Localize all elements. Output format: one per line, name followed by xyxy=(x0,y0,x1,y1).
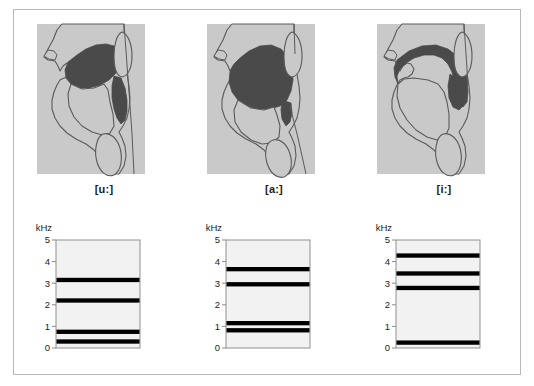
y-axis-tick-label: 2 xyxy=(45,299,50,310)
formant-band-F4 xyxy=(397,253,480,257)
y-axis-tick-label: 3 xyxy=(45,278,50,289)
y-axis-tick-label: 0 xyxy=(215,342,220,353)
y-axis-tick-label: 5 xyxy=(45,234,50,245)
y-axis-tick-label: 5 xyxy=(385,234,390,245)
formant-spectrum-u: kHz012345 xyxy=(24,218,184,368)
sagittal-vocal-tract-u xyxy=(24,14,184,186)
y-axis-tick-label: 0 xyxy=(385,342,390,353)
formant-band-F4 xyxy=(57,278,140,282)
formant-band-F2 xyxy=(227,321,310,325)
y-axis-tick-label: 5 xyxy=(215,234,220,245)
vowel-label-i: [i:] xyxy=(364,183,524,195)
y-axis-tick-label: 1 xyxy=(45,321,50,332)
sagittal-vocal-tract-a xyxy=(194,14,354,186)
y-axis-tick-label: 1 xyxy=(385,321,390,332)
y-axis-tick-label: 4 xyxy=(215,256,220,267)
y-axis-tick-label: 2 xyxy=(385,299,390,310)
formant-band-F2 xyxy=(57,330,140,334)
formant-band-F1 xyxy=(227,328,310,332)
formant-band-F3 xyxy=(227,282,310,286)
formant-spectrum-a: kHz012345 xyxy=(194,218,354,368)
y-axis-tick-label: 4 xyxy=(45,256,50,267)
y-axis-tick-label: 1 xyxy=(215,321,220,332)
axis-unit-label: kHz xyxy=(376,222,393,233)
formant-band-F3 xyxy=(57,298,140,302)
formant-band-F1 xyxy=(57,339,140,343)
formant-band-F2 xyxy=(397,286,480,290)
y-axis-tick-label: 3 xyxy=(385,278,390,289)
formant-band-F4 xyxy=(227,267,310,271)
vowel-articulation-figure: [u:] [a:] [i:] kHz012345 kHz012345 kHz01… xyxy=(0,0,534,386)
formant-spectrum-i: kHz012345 xyxy=(364,218,524,368)
formant-band-F3 xyxy=(397,271,480,275)
y-axis-tick-label: 0 xyxy=(45,342,50,353)
y-axis-tick-label: 2 xyxy=(215,299,220,310)
vowel-label-a: [a:] xyxy=(194,183,354,195)
vowel-label-u: [u:] xyxy=(24,183,184,195)
y-axis-tick-label: 3 xyxy=(215,278,220,289)
axis-unit-label: kHz xyxy=(206,222,223,233)
y-axis-tick-label: 4 xyxy=(385,256,390,267)
axis-unit-label: kHz xyxy=(36,222,53,233)
formant-band-F1 xyxy=(397,340,480,344)
sagittal-vocal-tract-i xyxy=(364,14,524,186)
